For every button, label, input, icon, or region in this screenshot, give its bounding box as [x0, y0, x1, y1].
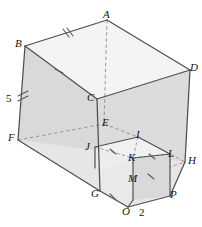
vertex-label-B: B: [15, 38, 22, 49]
vertex-label-J: J: [85, 141, 90, 152]
vertex-label-E: E: [102, 117, 109, 128]
dimension-label-5: 5: [6, 93, 12, 104]
vertex-label-P: P: [170, 189, 177, 200]
vertex-label-A: A: [103, 9, 110, 20]
vertex-label-G: G: [91, 188, 99, 199]
vertex-label-D: D: [190, 62, 198, 73]
dimension-label-2: 2: [139, 207, 145, 218]
vertex-label-L: L: [168, 148, 174, 159]
vertex-label-H: H: [188, 155, 196, 166]
vertex-label-F: F: [8, 132, 15, 143]
vertex-label-O: O: [122, 206, 130, 217]
geometry-figure: A B C D E F G H I J K L M O P 5 2: [0, 0, 202, 227]
vertex-label-C: C: [87, 92, 94, 103]
vertex-label-I: I: [136, 129, 140, 140]
vertex-label-K: K: [128, 152, 135, 163]
vertex-label-M: M: [128, 173, 137, 184]
